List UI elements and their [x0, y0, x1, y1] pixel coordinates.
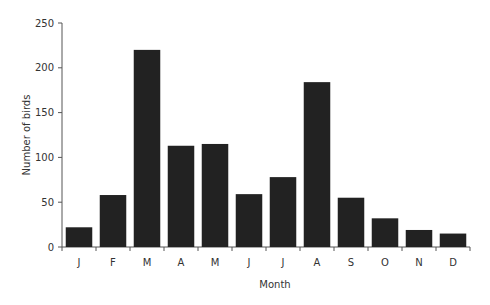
bar-10	[406, 230, 433, 247]
y-tick-label: 100	[35, 152, 54, 163]
bar-chart: 050100150200250 JFMAMJJASOND Number of b…	[0, 0, 490, 305]
bar-2	[134, 50, 161, 247]
x-tick-label: J	[281, 257, 285, 268]
x-tick-label: M	[143, 257, 152, 268]
x-tick-label: O	[381, 257, 389, 268]
bar-7	[304, 82, 331, 247]
x-tick-label: M	[211, 257, 220, 268]
bar-3	[168, 146, 195, 247]
x-tick-label: N	[415, 257, 422, 268]
y-axis-title: Number of birds	[21, 95, 32, 176]
y-tick-label: 50	[41, 197, 54, 208]
x-tick-label: A	[314, 257, 321, 268]
y-tick-label: 0	[48, 242, 54, 253]
y-tick-label: 250	[35, 18, 54, 29]
x-tick-label: J	[247, 257, 251, 268]
y-tick-label: 200	[35, 62, 54, 73]
x-tick-label: A	[178, 257, 185, 268]
bars	[66, 50, 467, 247]
y-tick-label: 150	[35, 107, 54, 118]
bar-11	[440, 234, 467, 247]
bar-0	[66, 227, 93, 247]
x-tick-label: J	[77, 257, 81, 268]
bar-9	[372, 218, 399, 247]
bar-1	[100, 195, 127, 247]
x-axis-title: Month	[259, 279, 290, 290]
x-tick-label: D	[449, 257, 457, 268]
bar-6	[270, 177, 297, 247]
x-tick-label: F	[110, 257, 116, 268]
bar-8	[338, 198, 365, 247]
x-axis: JFMAMJJASOND	[62, 247, 470, 268]
y-axis: 050100150200250	[35, 18, 62, 253]
x-tick-label: S	[348, 257, 354, 268]
bar-5	[236, 194, 263, 247]
bar-4	[202, 144, 229, 247]
